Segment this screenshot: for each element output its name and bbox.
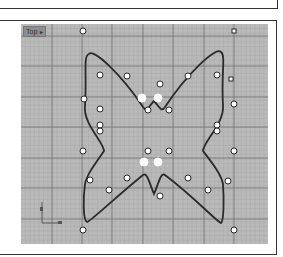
x-axis-marker <box>58 221 62 224</box>
dropdown-arrow-icon: ▸ <box>40 29 43 35</box>
y-axis-marker <box>40 207 43 211</box>
upper-panel-frame <box>0 0 278 9</box>
viewport-label-tab[interactable]: Top▸ <box>23 26 46 37</box>
axis-indicator <box>21 24 268 244</box>
viewport-label: Top <box>26 28 37 35</box>
top-viewport[interactable]: Top▸ <box>21 24 268 244</box>
